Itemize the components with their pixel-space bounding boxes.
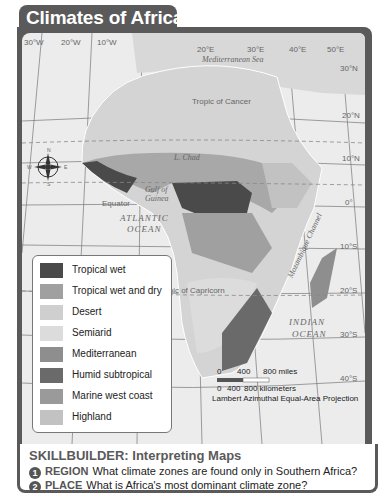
lon-label: 20°E — [197, 45, 214, 54]
scale-miles-0: 0 — [217, 367, 221, 376]
compass-e: E — [64, 164, 67, 170]
legend-item: Humid subtropical — [40, 366, 170, 385]
swatch-marine-west-coast — [40, 389, 63, 404]
question-1: 1REGIONWhat climate zones are found only… — [29, 465, 357, 479]
scale-miles-400: 400 — [237, 367, 250, 376]
lat-label: 0° — [345, 198, 353, 207]
compass-n: N — [47, 147, 51, 153]
lat-label: 30°N — [340, 64, 358, 73]
scale-miles-800: 800 miles — [263, 367, 297, 376]
lat-label: 10°N — [342, 154, 360, 163]
indian-ocean-label: OCEAN — [292, 329, 327, 339]
map-title: Climates of Africa — [26, 7, 183, 29]
swatch-humid-subtropical — [40, 368, 63, 383]
swatch-highland — [40, 410, 63, 425]
swatch-tropical-wet-dry — [40, 284, 63, 299]
legend-item: Semiarid — [40, 324, 170, 343]
swatch-semiarid — [40, 326, 63, 341]
legend-item: Tropical wet — [40, 261, 170, 280]
lat-label: 10°S — [340, 242, 357, 251]
projection-label: Lambert Azimuthal Equal-Area Projection — [212, 394, 358, 403]
compass-s: S — [47, 181, 50, 187]
ocean-label: OCEAN — [127, 224, 162, 234]
lon-label: 50°E — [327, 45, 344, 54]
question-2: 2PLACEWhat is Africa's most dominant cli… — [29, 479, 307, 493]
equator-label: Equator — [102, 199, 130, 208]
gulf-of-guinea-label: Gulf of Guinea — [145, 185, 175, 203]
swatch-tropical-wet — [40, 263, 63, 278]
lat-label: 20°S — [340, 286, 357, 295]
legend-item: Desert — [40, 303, 170, 322]
indian-label: INDIAN — [289, 317, 325, 327]
scale-km-400: 400 — [227, 384, 240, 393]
lat-label: 20°N — [342, 111, 360, 120]
skillbuilder-title: SKILLBUILDER: Interpreting Maps — [29, 448, 241, 463]
mediterranean-label: Mediterranean Sea — [202, 55, 264, 64]
scale-km-800: 800 kilometers — [244, 384, 296, 393]
compass-w: W — [27, 164, 32, 170]
climate-legend: Tropical wet Tropical wet and dry Desert… — [32, 255, 172, 433]
skillbuilder-box: SKILLBUILDER: Interpreting Maps 1REGIONW… — [17, 444, 378, 493]
legend-item: Marine west coast — [40, 387, 170, 406]
compass-rose-icon — [34, 153, 62, 181]
number-badge: 2 — [29, 481, 41, 493]
lon-label: 30°W — [24, 38, 44, 47]
lon-label: 10°W — [97, 38, 117, 47]
lon-label: 30°E — [247, 45, 264, 54]
lon-label: 40°E — [289, 45, 306, 54]
lon-label: 20°W — [61, 38, 81, 47]
legend-item: Mediterranean — [40, 345, 170, 364]
atlantic-label: ATLANTIC — [120, 213, 169, 223]
tropic-of-cancer-label: Tropic of Cancer — [192, 97, 251, 106]
number-badge: 1 — [29, 467, 41, 479]
swatch-mediterranean — [40, 347, 63, 362]
legend-item: Highland — [40, 408, 170, 427]
legend-item: Tropical wet and dry — [40, 282, 170, 301]
swatch-desert — [40, 305, 63, 320]
scale-km-0: 0 — [217, 384, 221, 393]
lat-label: 40°S — [340, 374, 357, 383]
lat-label: 30°S — [340, 330, 357, 339]
lake-chad-label: L. Chad — [174, 153, 200, 162]
